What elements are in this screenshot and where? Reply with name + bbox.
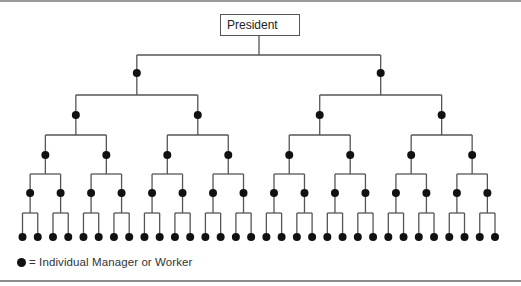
manager-node (392, 189, 400, 197)
manager-node (361, 189, 369, 197)
manager-node (346, 151, 354, 159)
manager-node (270, 189, 278, 197)
worker-node (49, 233, 57, 241)
manager-node (240, 189, 248, 197)
manager-node (194, 111, 202, 119)
worker-node (476, 233, 484, 241)
worker-node (491, 233, 499, 241)
manager-node (209, 189, 217, 197)
worker-node (415, 233, 423, 241)
worker-node (110, 233, 118, 241)
worker-node (171, 233, 179, 241)
org-chart (0, 0, 521, 286)
worker-node (461, 233, 469, 241)
manager-node (331, 189, 339, 197)
worker-node (186, 233, 194, 241)
manager-node (118, 189, 126, 197)
worker-node (323, 233, 331, 241)
president-box: President (220, 14, 300, 36)
legend-node-icon (17, 258, 26, 267)
manager-node (483, 189, 491, 197)
manager-node (300, 189, 308, 197)
manager-node (224, 151, 232, 159)
manager-node (407, 151, 415, 159)
worker-node (339, 233, 347, 241)
legend: = Individual Manager or Worker (17, 256, 193, 268)
worker-node (400, 233, 408, 241)
worker-node (430, 233, 438, 241)
manager-node (133, 69, 141, 77)
worker-node (217, 233, 225, 241)
manager-node (26, 189, 34, 197)
worker-node (79, 233, 87, 241)
worker-node (232, 233, 240, 241)
worker-node (201, 233, 209, 241)
worker-node (293, 233, 301, 241)
manager-node (102, 151, 110, 159)
manager-node (148, 189, 156, 197)
manager-node (468, 151, 476, 159)
worker-node (262, 233, 270, 241)
manager-node (41, 151, 49, 159)
legend-text: = Individual Manager or Worker (29, 256, 193, 268)
worker-node (140, 233, 148, 241)
worker-node (278, 233, 286, 241)
manager-node (453, 189, 461, 197)
worker-node (308, 233, 316, 241)
manager-node (163, 151, 171, 159)
worker-node (19, 233, 27, 241)
worker-node (384, 233, 392, 241)
worker-node (369, 233, 377, 241)
worker-node (34, 233, 42, 241)
manager-node (422, 189, 430, 197)
manager-node (377, 69, 385, 77)
worker-node (354, 233, 362, 241)
manager-node (179, 189, 187, 197)
manager-node (438, 111, 446, 119)
manager-node (57, 189, 65, 197)
connector-lines (23, 36, 496, 237)
worker-node (247, 233, 255, 241)
worker-node (156, 233, 164, 241)
worker-node (445, 233, 453, 241)
worker-node (125, 233, 133, 241)
manager-node (87, 189, 95, 197)
manager-node (285, 151, 293, 159)
worker-node (95, 233, 103, 241)
manager-node (72, 111, 80, 119)
worker-node (64, 233, 72, 241)
manager-node (316, 111, 324, 119)
